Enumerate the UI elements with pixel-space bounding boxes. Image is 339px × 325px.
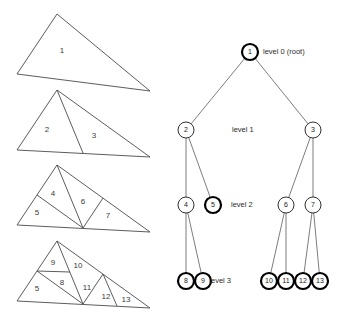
triangle-region-label: 11 — [83, 283, 92, 292]
triangle-region-label: 4 — [51, 189, 56, 198]
tree-node-12[interactable]: 12 — [295, 273, 311, 289]
tree-edge-1-2 — [191, 58, 245, 124]
tree-edge-2-5 — [189, 138, 211, 198]
tree-node-label: 8 — [184, 277, 188, 284]
triangle-region-label: 6 — [81, 197, 86, 206]
triangle-region-label: 9 — [51, 258, 56, 267]
tree-node-5[interactable]: 5 — [205, 197, 221, 213]
tree-node-label: 9 — [201, 277, 205, 284]
triangle-stage-2: 23 — [17, 90, 150, 157]
tree-level-2-label: level 2 — [231, 200, 253, 209]
tree-node-4[interactable]: 4 — [178, 197, 194, 213]
tree-edge-3-6 — [289, 138, 311, 198]
tree-node-label: 2 — [184, 126, 188, 133]
tree-nodes-group: 12345678910111213 — [178, 44, 328, 289]
tree-node-label: 13 — [316, 277, 324, 284]
tree-level-3-label: level 3 — [209, 276, 231, 285]
triangle-region-label: 5 — [35, 284, 40, 293]
triangle-outline — [17, 14, 150, 91]
tree-node-label: 6 — [284, 201, 288, 208]
tree-node-13[interactable]: 13 — [312, 273, 328, 289]
triangle-region-label: 3 — [92, 131, 97, 140]
triangle-subdivision-tree-figure: 123456791081151213 12345678910111213 lev… — [0, 0, 339, 325]
tree-level-0-label: level 0 (root) — [263, 47, 305, 56]
tree-node-label: 11 — [282, 277, 289, 284]
triangle-region-label: 10 — [74, 261, 83, 270]
triangle-cut-sub-9-8 — [37, 271, 70, 272]
tree-edge-1-3 — [255, 58, 308, 124]
tree-node-8[interactable]: 8 — [178, 273, 194, 289]
tree-level-labels-group: level 0 (root)level 1level 2level 3 — [209, 47, 305, 285]
triangle-outline — [17, 90, 150, 157]
triangle-region-label: 7 — [106, 211, 111, 220]
tree-node-3[interactable]: 3 — [305, 122, 321, 138]
tree-node-label: 7 — [311, 201, 315, 208]
tree-node-label: 1 — [248, 48, 252, 55]
tree-node-6[interactable]: 6 — [278, 197, 294, 213]
triangle-region-label: 8 — [60, 278, 65, 287]
tree-edges-group — [186, 58, 319, 273]
triangle-subdivision-panel: 123456791081151213 — [17, 14, 150, 308]
tree-node-label: 4 — [184, 201, 188, 208]
tree-edge-6-10 — [271, 213, 285, 273]
triangle-cut-right-median — [83, 198, 103, 228]
tree-node-7[interactable]: 7 — [305, 197, 321, 213]
tree-edge-7-12 — [304, 213, 312, 273]
tree-edge-4-9 — [188, 213, 202, 273]
tree-node-11[interactable]: 11 — [278, 273, 294, 289]
triangle-stage-4: 91081151213 — [17, 241, 150, 308]
tree-node-label: 3 — [311, 126, 315, 133]
tree-node-2[interactable]: 2 — [178, 122, 194, 138]
tree-node-label: 12 — [299, 277, 307, 284]
tree-node-1[interactable]: 1 — [242, 44, 258, 60]
triangle-region-label: 12 — [102, 292, 111, 301]
triangle-region-label: 13 — [122, 295, 131, 304]
tree-edge-7-13 — [314, 213, 320, 273]
tree-node-10[interactable]: 10 — [261, 273, 277, 289]
triangle-region-label: 5 — [35, 208, 40, 217]
triangle-stage-3: 4567 — [17, 165, 150, 232]
tree-node-label: 5 — [211, 201, 215, 208]
tree-node-label: 10 — [265, 277, 273, 284]
triangle-region-label: 1 — [60, 46, 65, 55]
tree-level-1-label: level 1 — [232, 125, 254, 134]
triangle-region-label: 2 — [45, 125, 50, 134]
triangle-stage-1: 1 — [17, 14, 150, 91]
